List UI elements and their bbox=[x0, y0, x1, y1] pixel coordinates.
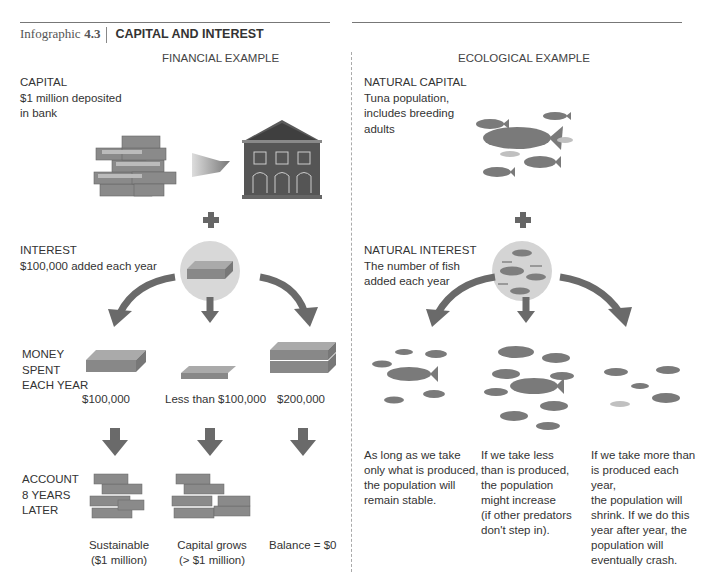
arrow-down-right-icon bbox=[608, 307, 632, 327]
eco-outcome-crash: If we take more than is produced each ye… bbox=[591, 448, 704, 568]
deposit-arrow-icon bbox=[190, 150, 232, 180]
label-line: SPENT bbox=[22, 363, 88, 379]
outcome-text: Balance = $0 bbox=[269, 538, 336, 553]
label-line: 8 YEARS bbox=[22, 488, 79, 504]
header-separator bbox=[106, 27, 107, 43]
header-rule bbox=[20, 22, 330, 23]
capital-label: CAPITAL $1 million deposited in bank bbox=[20, 75, 122, 122]
ecological-section-title: ECOLOGICAL EXAMPLE bbox=[458, 52, 590, 64]
money-stack-icon bbox=[92, 128, 182, 200]
outflow-arrows bbox=[100, 265, 330, 335]
text-line: shrink. If we do this bbox=[591, 508, 704, 523]
header-rule bbox=[352, 22, 682, 23]
text-line: (if other predators bbox=[481, 508, 572, 523]
text-line: year after year, the bbox=[591, 523, 704, 538]
plus-icon bbox=[515, 212, 531, 228]
money-bundle-icon bbox=[86, 348, 148, 374]
text-line: population will bbox=[591, 538, 704, 553]
increased-tuna-school-icon bbox=[476, 340, 586, 440]
arrow-down-right-icon bbox=[294, 307, 318, 327]
tuna-school-icon bbox=[455, 110, 595, 210]
capital-desc: $1 million deposited bbox=[20, 91, 122, 107]
arrow-down-icon bbox=[201, 311, 219, 323]
figure-header: Infographic 4.3CAPITAL AND INTEREST bbox=[20, 26, 264, 43]
label-line: LATER bbox=[22, 503, 79, 519]
label-line: ACCOUNT bbox=[22, 472, 79, 488]
outflow-arrows bbox=[410, 265, 660, 335]
text-line: the population bbox=[481, 478, 572, 493]
text-line: remain stable. bbox=[364, 493, 478, 508]
money-bill-icon bbox=[181, 365, 237, 381]
label-line: adults bbox=[364, 122, 467, 138]
natural-capital-heading: NATURAL CAPITAL bbox=[364, 75, 467, 91]
arrow-down-icon bbox=[517, 311, 535, 323]
outcome-line: Sustainable bbox=[84, 538, 154, 553]
arrow-down-left-icon bbox=[108, 309, 132, 327]
outcome-line: Capital grows bbox=[172, 538, 252, 553]
spent-value: Less than $100,000 bbox=[165, 392, 266, 407]
text-line: the population will bbox=[364, 478, 478, 493]
arrow-down-icon bbox=[288, 428, 318, 458]
stable-tuna-school-icon bbox=[364, 342, 464, 412]
outcome-text: Sustainable ($1 million) bbox=[84, 538, 154, 568]
money-stack-grown-icon bbox=[170, 472, 255, 522]
plus-icon bbox=[203, 212, 219, 228]
spent-value: $200,000 bbox=[277, 392, 325, 407]
label-line: Tuna population, bbox=[364, 91, 467, 107]
text-line: than is produced, bbox=[481, 463, 572, 478]
natural-interest-heading: NATURAL INTEREST bbox=[364, 243, 476, 259]
financial-section-title: FINANCIAL EXAMPLE bbox=[162, 52, 279, 64]
text-line: If we take more than bbox=[591, 448, 704, 463]
label-line: includes breeding bbox=[364, 106, 467, 122]
outcome-line: ($1 million) bbox=[84, 553, 154, 568]
figure-prefix: Infographic bbox=[20, 26, 81, 41]
label-line: EACH YEAR bbox=[22, 378, 88, 394]
interest-heading: INTEREST bbox=[20, 243, 157, 259]
text-line: only what is produced, bbox=[364, 463, 478, 478]
money-double-bundle-icon bbox=[270, 340, 338, 376]
spent-value: $100,000 bbox=[82, 392, 130, 407]
figure-title: CAPITAL AND INTEREST bbox=[115, 27, 263, 41]
capital-heading: CAPITAL bbox=[20, 75, 122, 91]
arrow-down-left-icon bbox=[426, 309, 450, 327]
figure-number: 4.3 bbox=[84, 26, 100, 41]
text-line: eventually crash. bbox=[591, 553, 704, 568]
natural-capital-label: NATURAL CAPITAL Tuna population, include… bbox=[364, 75, 467, 137]
capital-desc: in bank bbox=[20, 106, 122, 122]
eco-outcome-increase: If we take less than is produced, the po… bbox=[481, 448, 572, 538]
bank-icon bbox=[242, 120, 322, 200]
arrow-down-icon bbox=[195, 428, 225, 458]
account-label: ACCOUNT 8 YEARS LATER bbox=[22, 472, 79, 519]
section-divider bbox=[351, 52, 352, 572]
text-line: don't step in). bbox=[481, 523, 572, 538]
money-stack-icon bbox=[88, 472, 146, 522]
outcome-line: (> $1 million) bbox=[172, 553, 252, 568]
money-spent-label: MONEY SPENT EACH YEAR bbox=[22, 347, 88, 394]
arrow-down-icon bbox=[100, 428, 130, 458]
text-line: If we take less bbox=[481, 448, 572, 463]
eco-outcome-stable: As long as we take only what is produced… bbox=[364, 448, 478, 508]
text-line: is produced each year, bbox=[591, 463, 704, 493]
text-line: might increase bbox=[481, 493, 572, 508]
text-line: As long as we take bbox=[364, 448, 478, 463]
outcome-text: Capital grows (> $1 million) bbox=[172, 538, 252, 568]
label-line: MONEY bbox=[22, 347, 88, 363]
text-line: the population will bbox=[591, 493, 704, 508]
depleted-tuna-school-icon bbox=[600, 360, 690, 420]
